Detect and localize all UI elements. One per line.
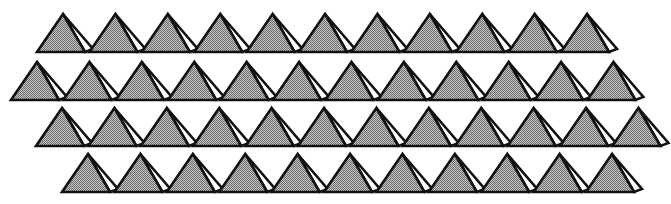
tetrahedron-unit: [168, 62, 224, 100]
tetrahedron-unit: [483, 62, 539, 100]
tetrahedron-unit: [298, 108, 354, 146]
unit-row-4: [62, 154, 642, 192]
tetrahedron-unit: [193, 108, 249, 146]
tetrahedron-unit: [509, 14, 565, 52]
tetrahedron-unit: [299, 14, 355, 52]
tetrahedron-unit: [455, 108, 511, 146]
tetrahedron-unit: [429, 154, 485, 192]
tetrahedron-unit: [456, 14, 512, 52]
unit-row-3: [36, 108, 668, 146]
tetrahedron-unit: [167, 154, 223, 192]
tetrahedron-unit: [508, 108, 564, 146]
tetrahedron-unit: [376, 154, 432, 192]
tetrahedron-unit: [11, 62, 67, 100]
tetrahedron-unit: [481, 154, 537, 192]
tetrahedron-unit: [535, 62, 591, 100]
tetrahedron-unit: [403, 108, 459, 146]
tetrahedron-unit: [273, 62, 329, 100]
tetrahedron-unit: [89, 14, 145, 52]
tetrahedra-tessellation-diagram: [0, 0, 671, 204]
tetrahedron-unit: [194, 14, 250, 52]
tetrahedron-unit: [350, 108, 406, 146]
tetrahedron-unit: [219, 154, 275, 192]
tetrahedron-unit: [247, 14, 303, 52]
tetrahedron-unit: [324, 154, 380, 192]
tetrahedron-unit: [534, 154, 590, 192]
tetrahedron-unit: [63, 62, 119, 100]
tetrahedron-unit: [378, 62, 434, 100]
unit-row-1: [37, 14, 617, 52]
tetrahedron-unit: [62, 154, 118, 192]
tetrahedron-unit: [36, 108, 92, 146]
tetrahedron-unit: [141, 108, 197, 146]
unit-row-2: [11, 62, 643, 100]
tetrahedron-unit: [88, 108, 144, 146]
tetrahedron-unit: [404, 14, 460, 52]
tetrahedron-units: [11, 14, 668, 192]
tetrahedron-unit: [246, 108, 302, 146]
tetrahedron-unit: [351, 14, 407, 52]
tetrahedron-unit: [561, 14, 617, 52]
tetrahedron-unit: [37, 14, 93, 52]
tetrahedron-unit: [430, 62, 486, 100]
tetrahedron-unit: [325, 62, 381, 100]
tetrahedron-unit: [586, 154, 642, 192]
tetrahedron-unit: [142, 14, 198, 52]
tetrahedron-unit: [560, 108, 616, 146]
tetrahedron-unit: [221, 62, 277, 100]
tetrahedron-unit: [114, 154, 170, 192]
tetrahedron-unit: [612, 108, 668, 146]
tetrahedron-unit: [272, 154, 328, 192]
tetrahedron-unit: [116, 62, 172, 100]
tetrahedron-unit: [587, 62, 643, 100]
